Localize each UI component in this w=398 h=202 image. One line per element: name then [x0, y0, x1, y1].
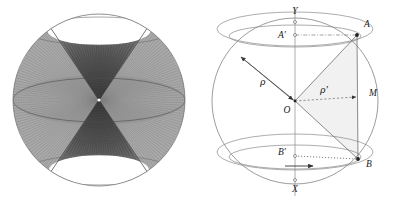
label-O: O — [284, 105, 291, 115]
node-B-prime — [294, 155, 297, 158]
node-Y — [294, 21, 297, 24]
rho-radius-arrow-back — [241, 57, 293, 100]
sphere-body — [0, 0, 199, 202]
sphere-cross-section-svg: YXOABMA′B′ρρ′ — [199, 0, 398, 202]
b-prime-to-b-line — [295, 156, 358, 159]
point-O — [294, 100, 297, 103]
triangle-OAB-shading — [295, 35, 358, 159]
label-Y: Y — [292, 6, 299, 16]
label-A: A — [363, 19, 370, 29]
point-B — [356, 157, 360, 161]
label-rho: ρ — [259, 75, 265, 87]
label-Aprime: A′ — [277, 30, 287, 40]
figure-root: YXOABMA′B′ρρ′ — [0, 0, 398, 202]
top-cap — [48, 14, 151, 45]
right-panel-rho-diagram: YXOABMA′B′ρρ′ — [199, 0, 398, 202]
label-Bprime: B′ — [278, 147, 287, 157]
point-A — [355, 33, 359, 37]
cone-apex — [97, 98, 100, 101]
bottom-cap — [49, 155, 149, 186]
sphere-double-cone-svg — [0, 0, 199, 202]
label-rhoprime: ρ′ — [319, 83, 328, 95]
node-A-prime — [294, 34, 297, 37]
label-B: B — [366, 159, 372, 169]
node-X — [294, 179, 297, 182]
left-panel-sphere-cone — [0, 0, 199, 202]
label-X: X — [291, 184, 299, 194]
label-M: M — [368, 88, 378, 98]
